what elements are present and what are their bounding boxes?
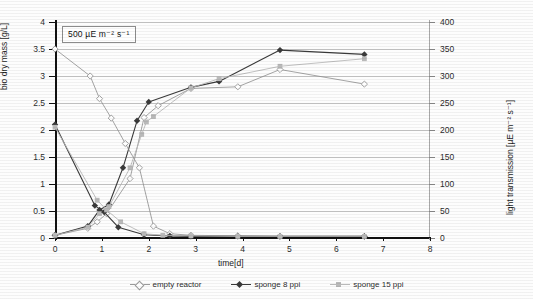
legend-item-2[interactable]: sponge 15 ppi (330, 280, 403, 289)
chart-figure: 00.511.522.533.54 0501001502002503003504… (0, 0, 533, 299)
legend-label: empty reactor (153, 280, 202, 289)
legend-swatch-icon (330, 280, 350, 289)
legend-label: sponge 8 ppi (254, 280, 300, 289)
series-plot-area (0, 0, 533, 299)
legend: empty reactorsponge 8 ppisponge 15 ppi (0, 280, 533, 289)
legend-label: sponge 15 ppi (353, 280, 403, 289)
legend-swatch-icon (231, 280, 251, 289)
series-1 (52, 47, 368, 239)
legend-item-1[interactable]: sponge 8 ppi (231, 280, 300, 289)
legend-swatch-icon (130, 280, 150, 289)
legend-item-0[interactable]: empty reactor (130, 280, 202, 289)
